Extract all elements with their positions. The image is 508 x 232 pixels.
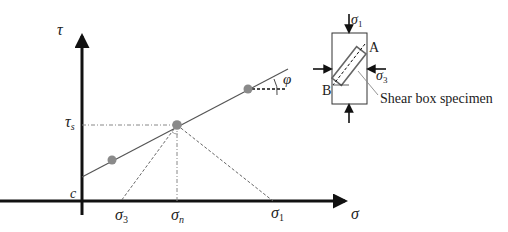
shear-box-schematic: σ1 σ3 A B Shear box specimen [313, 12, 493, 123]
tau-s-label: τs [65, 113, 75, 132]
inset-sigma1-label: σ1 [351, 12, 362, 29]
corner-b-label: B [322, 83, 331, 98]
sigma-axis-label: σ [351, 205, 360, 222]
cohesion-label: c [70, 186, 77, 201]
phi-label: φ [283, 71, 291, 87]
data-point-3 [244, 85, 253, 94]
inset-sigma3-label: σ3 [376, 68, 388, 85]
data-point-2 [172, 120, 182, 130]
sigma1-label: σ1 [271, 204, 284, 223]
phi-arc [274, 79, 277, 95]
angle-arc-left [172, 132, 178, 134]
sigma1-guide [177, 125, 273, 201]
mohr-coulomb-diagram: τ σ c τs σ3 σn σ1 φ σ1 σ3 A B Shear box … [0, 0, 508, 232]
sigma3-label: σ3 [115, 206, 128, 225]
sigma-n-label: σn [171, 206, 184, 225]
sigma3-guide [121, 125, 177, 201]
corner-a-label: A [369, 40, 380, 55]
sample-outline [332, 33, 367, 104]
data-point-1 [108, 156, 117, 165]
tau-axis-label: τ [57, 21, 64, 38]
specimen-leader-line [358, 71, 378, 95]
specimen-label: Shear box specimen [380, 91, 493, 106]
shear-plane [333, 44, 365, 85]
